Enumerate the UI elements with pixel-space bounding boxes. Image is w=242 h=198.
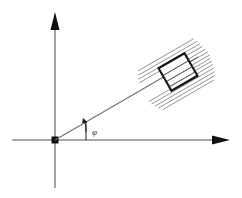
angle-label-phi: φ	[92, 127, 97, 137]
hatch-line	[192, 55, 209, 65]
axis-arrow-right-icon	[212, 136, 230, 145]
axis-arrow-up-icon	[51, 12, 60, 30]
horizontal-axis	[12, 136, 230, 145]
physics-diagram-figure: φ	[0, 0, 242, 198]
angle-arrowhead-icon	[82, 118, 87, 123]
vertical-axis	[51, 12, 60, 188]
diagram-canvas: φ	[0, 0, 242, 198]
